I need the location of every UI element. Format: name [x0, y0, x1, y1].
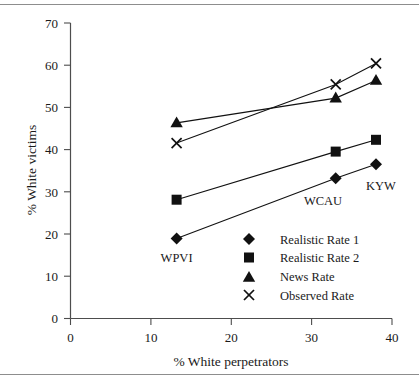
chart-legend: Realistic Rate 1 Realistic Rate 2 News R…: [243, 233, 359, 303]
y-tick-label: 20: [45, 227, 58, 242]
series-realistic-rate-2: [172, 135, 381, 205]
data-point-marker-triangle: [330, 92, 342, 103]
legend-marker-triangle: [243, 271, 255, 282]
series-line-realistic-rate-1: [177, 164, 376, 238]
bottom-divider-rule: [0, 374, 419, 375]
data-point-marker-diamond: [171, 232, 183, 244]
legend-label-observed-rate: Observed Rate: [280, 289, 354, 303]
data-point-marker-triangle: [370, 74, 382, 85]
annotation-label-wpvi: WPVI: [161, 251, 193, 265]
y-tick-label: 10: [45, 269, 58, 284]
annotation-label-wcau: WCAU: [304, 194, 342, 208]
legend-label-realistic-rate-2: Realistic Rate 2: [280, 251, 359, 265]
y-tick-labels: 70 60 50 40 30 20 10 0: [45, 16, 58, 327]
y-tick-label: 40: [45, 142, 58, 157]
series-realistic-rate-1: [171, 158, 382, 244]
legend-label-realistic-rate-1: Realistic Rate 1: [280, 233, 359, 247]
data-point-marker-cross: [371, 58, 381, 68]
y-tick-label: 70: [45, 16, 58, 31]
top-divider-rule: [0, 4, 419, 5]
annotation-label-kyw: KYW: [366, 179, 396, 193]
x-tick-labels: 0 10 20 30 40: [67, 330, 398, 345]
x-tick-marks: [71, 319, 393, 326]
line-chart: 70 60 50 40 30 20 10 0 0 10 20 30 40 % W…: [0, 0, 419, 389]
data-point-marker-diamond: [370, 158, 382, 170]
series-line-realistic-rate-2: [177, 140, 376, 200]
y-tick-label: 50: [45, 100, 58, 115]
y-tick-label: 60: [45, 58, 58, 73]
y-tick-marks: [64, 23, 71, 319]
point-group-annotations: WPVI WCAU KYW: [161, 179, 397, 265]
series-line-news-rate: [177, 80, 376, 123]
y-tick-label: 0: [52, 311, 59, 326]
data-point-marker-diamond: [330, 172, 342, 184]
x-axis-title: % White perpetrators: [173, 354, 288, 369]
x-tick-label: 10: [144, 330, 157, 345]
x-tick-label: 40: [386, 330, 399, 345]
figure-container: 70 60 50 40 30 20 10 0 0 10 20 30 40 % W…: [0, 0, 419, 389]
axes-group: [71, 23, 393, 319]
x-tick-label: 0: [67, 330, 74, 345]
series-line-observed-rate: [177, 63, 376, 143]
series-news-rate: [170, 74, 382, 127]
legend-label-news-rate: News Rate: [280, 270, 335, 284]
data-point-marker-cross: [172, 138, 182, 148]
data-point-marker-cross: [331, 79, 341, 89]
data-point-marker-square: [172, 195, 182, 205]
series-observed-rate: [172, 58, 381, 148]
legend-marker-diamond: [243, 233, 255, 245]
y-axis-title: % White victims: [24, 125, 39, 216]
data-point-marker-square: [371, 135, 381, 145]
x-tick-label: 20: [225, 330, 238, 345]
x-tick-label: 30: [305, 330, 318, 345]
legend-marker-square: [244, 253, 254, 263]
data-point-marker-square: [331, 147, 341, 157]
y-tick-label: 30: [45, 185, 58, 200]
legend-marker-cross: [244, 290, 254, 300]
